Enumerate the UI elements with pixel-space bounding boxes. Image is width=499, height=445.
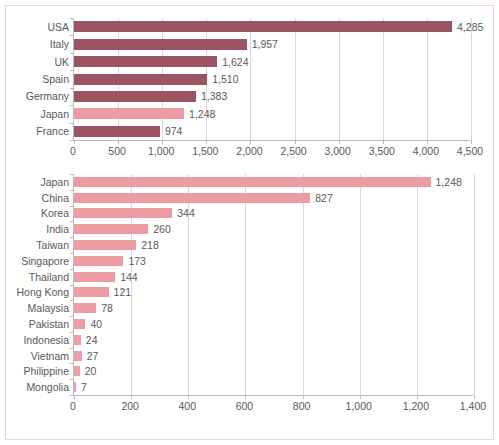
category-label: France	[36, 126, 69, 137]
gridline	[417, 174, 418, 395]
x-tick-label: 600	[236, 401, 254, 412]
chart-page: USAItalyUKSpainGermanyJapanFrance 4,2851…	[0, 0, 499, 445]
x-tick-label: 1,000	[346, 401, 372, 412]
bar	[74, 351, 82, 361]
bar-value-label: 974	[165, 126, 183, 137]
x-tick-label: 0	[70, 401, 76, 412]
category-label: Taiwan	[36, 240, 69, 251]
x-tick-label: 2,000	[236, 146, 262, 157]
y-tick-mark	[70, 348, 74, 349]
bar	[74, 382, 76, 392]
bar	[74, 74, 207, 85]
gridline	[474, 174, 475, 395]
category-label: Thailand	[29, 272, 69, 283]
y-tick-mark	[70, 300, 74, 301]
bar	[74, 366, 80, 376]
category-label: UK	[54, 57, 69, 68]
category-label: Vietnam	[31, 351, 69, 362]
category-label: Malaysia	[28, 303, 69, 314]
x-tick-label: 2,500	[280, 146, 306, 157]
bar	[74, 256, 123, 266]
x-tick-label: 4,000	[413, 146, 439, 157]
bar	[74, 91, 196, 102]
y-tick-mark	[70, 395, 74, 396]
gridline	[131, 174, 132, 395]
category-label: Italy	[50, 39, 69, 50]
chart-top-countries: USAItalyUKSpainGermanyJapanFrance 4,2851…	[0, 10, 499, 160]
y-tick-mark	[70, 363, 74, 364]
gridline	[427, 18, 428, 140]
bar-value-label: 827	[315, 193, 333, 204]
bar-value-label: 78	[101, 303, 113, 314]
y-tick-mark	[70, 190, 74, 191]
bar-value-label: 1,510	[212, 74, 238, 85]
y-tick-mark	[70, 285, 74, 286]
x-tick-label: 400	[179, 401, 197, 412]
y-tick-mark	[70, 221, 74, 222]
y-tick-mark	[70, 269, 74, 270]
plot-area: 4,2851,9571,6241,5101,3831,248974	[73, 18, 470, 140]
bar-value-label: 1,248	[436, 177, 462, 188]
x-tick-label: 1,000	[148, 146, 174, 157]
y-tick-mark	[70, 206, 74, 207]
bar	[74, 39, 247, 50]
bar-value-label: 144	[120, 272, 138, 283]
y-tick-mark	[70, 253, 74, 254]
bar	[74, 287, 109, 297]
gridline	[250, 18, 251, 140]
bar	[74, 303, 96, 313]
x-axis-line	[74, 140, 470, 141]
bar-value-label: 173	[128, 256, 146, 267]
category-label: Spain	[42, 74, 69, 85]
bar	[74, 224, 148, 234]
bar-value-label: 40	[90, 319, 102, 330]
category-label: Indonesia	[23, 335, 69, 346]
y-tick-mark	[70, 18, 74, 19]
y-tick-mark	[70, 53, 74, 54]
x-tick-label: 800	[293, 401, 311, 412]
x-tick-label: 1,400	[460, 401, 486, 412]
category-label: Japan	[40, 177, 69, 188]
bar-value-label: 20	[85, 366, 97, 377]
category-label: China	[42, 193, 69, 204]
y-tick-mark	[70, 140, 74, 141]
y-tick-mark	[70, 35, 74, 36]
x-tick-label: 3,500	[369, 146, 395, 157]
x-axis-line	[74, 395, 473, 396]
plot-wrapper: JapanChinaKoreaIndiaTaiwanSingaporeThail…	[0, 168, 499, 426]
bar-value-label: 218	[141, 240, 159, 251]
bar-value-label: 260	[153, 224, 171, 235]
y-tick-mark	[70, 123, 74, 124]
bar-value-label: 4,285	[457, 22, 483, 33]
bar-value-label: 344	[177, 208, 195, 219]
bar	[74, 335, 81, 345]
bar-value-label: 27	[87, 351, 99, 362]
x-tick-label: 1,500	[192, 146, 218, 157]
category-label-column: JapanChinaKoreaIndiaTaiwanSingaporeThail…	[0, 168, 73, 425]
bar-value-label: 1,383	[201, 91, 227, 102]
bar	[74, 108, 184, 119]
category-label: Korea	[41, 208, 69, 219]
y-tick-mark	[70, 88, 74, 89]
gridline	[245, 174, 246, 395]
category-label: Hong Kong	[16, 287, 69, 298]
y-tick-mark	[70, 174, 74, 175]
x-tick-label: 1,200	[403, 401, 429, 412]
bar	[74, 177, 431, 187]
y-tick-mark	[70, 105, 74, 106]
x-tick-mark	[471, 140, 472, 144]
bar	[74, 193, 310, 203]
y-tick-mark	[70, 70, 74, 71]
gridline	[360, 174, 361, 395]
y-tick-mark	[70, 332, 74, 333]
bar	[74, 319, 85, 329]
bar	[74, 126, 160, 137]
x-tick-label: 0	[70, 146, 76, 157]
category-label: USA	[47, 22, 69, 33]
y-tick-mark	[70, 379, 74, 380]
x-tick-label: 500	[108, 146, 126, 157]
y-tick-mark	[70, 316, 74, 317]
gridline	[383, 18, 384, 140]
x-tick-mark	[474, 395, 475, 399]
category-label: Mongolia	[26, 382, 69, 393]
